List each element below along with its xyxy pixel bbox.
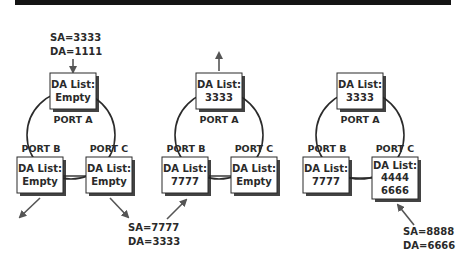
outgoing-arrow-b-icon	[20, 198, 40, 217]
port-b-label: PORT B	[22, 143, 61, 154]
outgoing-arrow-c-icon	[110, 198, 128, 217]
frame-sa: SA=3333	[50, 32, 101, 43]
svg-text:DA List:: DA List:	[163, 163, 207, 174]
top-bar	[15, 0, 451, 5]
svg-text:3333: 3333	[346, 92, 374, 103]
svg-text:DA List:: DA List:	[51, 79, 95, 90]
svg-text:DA List:: DA List:	[18, 163, 62, 174]
svg-text:3333: 3333	[205, 92, 233, 103]
svg-text:DA List:: DA List:	[197, 79, 241, 90]
switch-learning-diagram: SA=3333 DA=1111 DA List: Empty PORT A PO…	[0, 0, 460, 262]
incoming-arrow-icon	[167, 200, 186, 219]
frame-sa: SA=8888	[403, 226, 454, 237]
port-b-label: PORT B	[308, 143, 347, 154]
svg-text:DA List:: DA List:	[304, 163, 348, 174]
port-c-da-list: DA List: Empty	[86, 157, 135, 196]
port-c-da-list: DA List: 4444 6666	[372, 157, 421, 202]
port-c-label: PORT C	[376, 143, 415, 154]
port-a-da-list: DA List: 3333	[337, 73, 386, 112]
svg-text:4444: 4444	[381, 172, 409, 183]
svg-text:6666: 6666	[381, 185, 409, 196]
port-a-da-list: DA List: Empty	[50, 73, 99, 112]
frame-da: DA=1111	[50, 46, 102, 57]
svg-text:DA List:: DA List:	[87, 163, 131, 174]
port-a-label: PORT A	[53, 114, 93, 125]
port-b-da-list: DA List: 7777	[303, 157, 352, 196]
svg-text:Empty: Empty	[55, 92, 91, 103]
frame-da: DA=6666	[403, 240, 455, 251]
incoming-arrow-icon	[398, 205, 414, 225]
svg-text:Empty: Empty	[236, 176, 272, 187]
svg-text:7777: 7777	[312, 176, 340, 187]
port-a-label: PORT A	[340, 114, 380, 125]
port-b-label: PORT B	[167, 143, 206, 154]
diagram-2: DA List: 3333 PORT A PORT B DA List: 777…	[128, 53, 280, 247]
svg-text:DA List:: DA List:	[232, 163, 276, 174]
port-c-label: PORT C	[90, 143, 129, 154]
port-c-da-list: DA List: Empty	[231, 157, 280, 196]
diagram-3: DA List: 3333 PORT A PORT B DA List: 777…	[303, 73, 455, 251]
port-b-da-list: DA List: 7777	[162, 157, 211, 196]
port-a-label: PORT A	[199, 114, 239, 125]
port-c-label: PORT C	[235, 143, 274, 154]
svg-text:7777: 7777	[171, 176, 199, 187]
svg-text:DA List:: DA List:	[373, 160, 417, 171]
port-b-da-list: DA List: Empty	[17, 157, 66, 196]
frame-da: DA=3333	[128, 236, 180, 247]
svg-text:Empty: Empty	[22, 176, 58, 187]
svg-text:Empty: Empty	[91, 176, 127, 187]
svg-text:DA List:: DA List:	[338, 79, 382, 90]
diagram-1: SA=3333 DA=1111 DA List: Empty PORT A PO…	[17, 32, 135, 217]
frame-sa: SA=7777	[128, 222, 179, 233]
port-a-da-list: DA List: 3333	[196, 73, 245, 112]
